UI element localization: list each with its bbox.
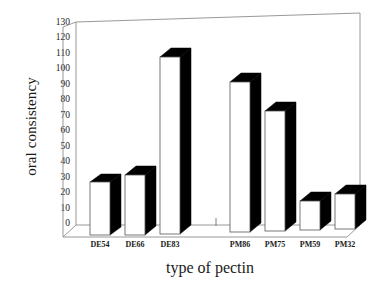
x-tick-label-PM59: PM59 (294, 240, 326, 249)
bar-PM75 (265, 102, 296, 231)
x-tick-label-DE66: DE66 (119, 240, 151, 249)
x-tick-label-DE83: DE83 (154, 240, 186, 249)
bar-DE83 (160, 48, 191, 234)
bar-chart-figure: oral consistency 130 120 110 100 90 80 7… (0, 0, 374, 292)
bar-PM32 (335, 185, 366, 229)
x-tick-label-PM32: PM32 (329, 240, 361, 249)
x-axis-title: type of pectin (60, 259, 360, 277)
x-tick-label-PM86: PM86 (224, 240, 256, 249)
x-tick-label-DE54: DE54 (84, 240, 116, 249)
bar-PM86 (230, 73, 261, 232)
x-tick-label-PM75: PM75 (259, 240, 291, 249)
bar-DE66 (125, 166, 156, 235)
bar-PM59 (300, 192, 331, 230)
bar-DE54 (90, 174, 121, 235)
